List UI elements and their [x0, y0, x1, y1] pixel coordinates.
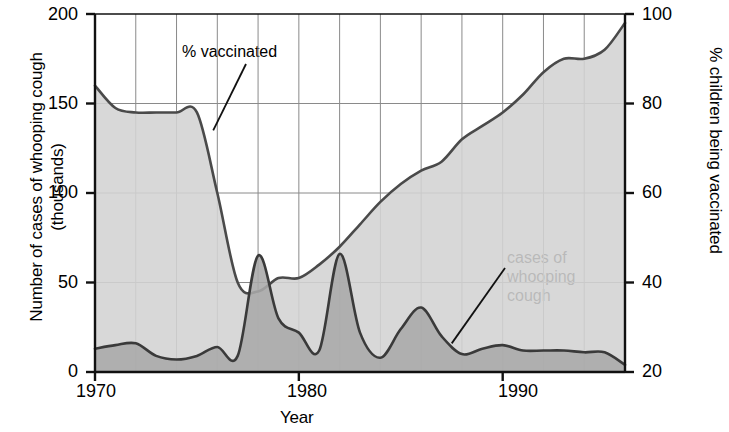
chart-container: Number of cases of whooping cough (thous… — [0, 0, 729, 432]
series-areas — [95, 23, 625, 372]
plot-svg — [0, 0, 729, 432]
